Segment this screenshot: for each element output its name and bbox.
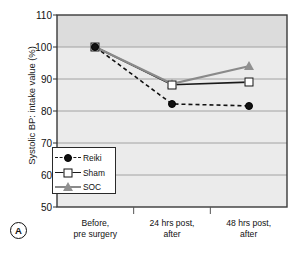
marker-sham-1: [168, 80, 177, 89]
x-label-2: 48 hrs post,after: [226, 218, 271, 240]
legend-marker-reiki-icon: [53, 150, 83, 165]
x-label-1: 24 hrs post,after: [150, 218, 195, 240]
x-label-0: Before,pre surgery: [74, 218, 117, 240]
legend-item-reiki: Reiki: [53, 150, 117, 165]
marker-soc-2: [244, 61, 254, 70]
legend-marker-sham-icon: [53, 165, 83, 180]
data-point-markers: [0, 0, 303, 255]
figure-panel-a: Systolic BP: intake value (%) 110 100 90…: [0, 0, 303, 255]
legend-item-soc: SOC: [53, 179, 117, 194]
panel-label: A: [10, 222, 27, 239]
legend-item-sham: Sham: [53, 165, 117, 180]
legend-label-soc: SOC: [83, 182, 101, 192]
legend-label-reiki: Reiki: [83, 153, 102, 163]
marker-sham-2: [244, 78, 253, 87]
legend-marker-soc-icon: [53, 179, 83, 194]
marker-reiki-0: [91, 43, 99, 51]
marker-reiki-2: [245, 102, 253, 110]
marker-reiki-1: [168, 100, 176, 108]
legend-label-sham: Sham: [83, 168, 105, 178]
legend: Reiki Sham SOC: [52, 147, 116, 194]
